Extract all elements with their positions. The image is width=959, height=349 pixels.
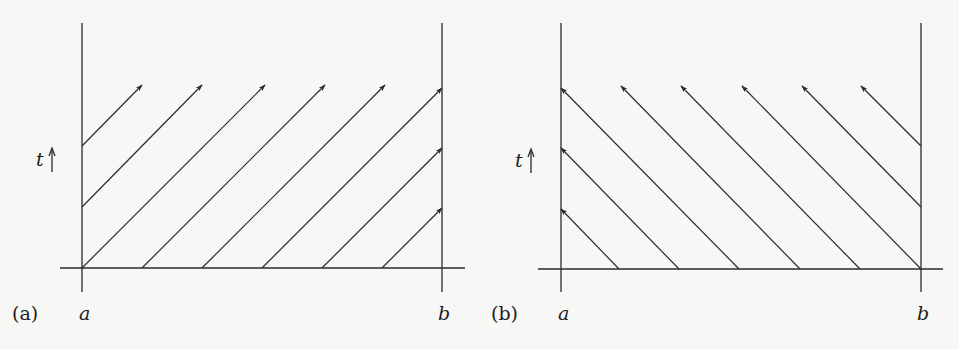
panel-b-label: (b) — [491, 302, 518, 324]
characteristic-arrow — [621, 86, 800, 269]
characteristic-arrow — [861, 86, 921, 146]
panel-a-characteristic-lines — [82, 85, 442, 268]
panel-a-label: (a) — [12, 302, 38, 324]
panel-a-right-boundary-label: b — [438, 302, 450, 324]
panel-b-left-moving-characteristics: (b) a b t — [491, 23, 943, 324]
characteristic-arrow — [802, 86, 921, 207]
characteristics-diagram: (a) a b t (b) a b t — [0, 0, 959, 349]
time-arrow-icon — [528, 149, 534, 173]
characteristic-arrow — [322, 148, 442, 268]
characteristic-arrow — [382, 208, 442, 268]
characteristic-arrow — [742, 86, 921, 269]
characteristic-arrow — [561, 209, 619, 269]
characteristic-arrow — [262, 88, 442, 268]
characteristic-arrow — [681, 86, 860, 269]
panel-a-time-label: t — [36, 148, 44, 170]
characteristic-arrow — [202, 85, 385, 268]
characteristic-arrow — [82, 85, 202, 207]
panel-b-characteristic-lines — [561, 86, 921, 269]
panel-b-left-boundary-label: a — [558, 302, 569, 324]
characteristic-arrow — [82, 85, 142, 146]
time-arrow-icon — [49, 148, 55, 172]
panel-a-left-boundary-label: a — [79, 302, 90, 324]
panel-b-frame — [538, 23, 943, 292]
characteristic-arrow — [561, 148, 679, 269]
panel-b-time-label: t — [515, 149, 523, 171]
panel-b-right-boundary-label: b — [917, 302, 929, 324]
characteristic-arrow — [82, 85, 265, 268]
panel-a-frame — [60, 23, 465, 292]
panel-a-right-moving-characteristics: (a) a b t — [12, 23, 465, 324]
characteristic-arrow — [142, 85, 325, 268]
